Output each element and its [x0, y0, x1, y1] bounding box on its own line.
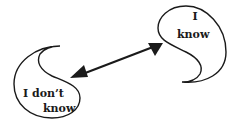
bidirectional-arrow — [70, 43, 163, 78]
label-dont-know-line1: I don’t — [23, 87, 64, 100]
label-know-line2: know — [177, 28, 209, 41]
label-dont-know-line2: know — [43, 102, 75, 115]
label-dont-know: I don’t — [23, 88, 64, 100]
label-know-line2-wrap: know — [177, 29, 209, 41]
label-know: I — [184, 11, 206, 23]
label-dont-know-line2-wrap: know — [43, 103, 75, 115]
label-know-line1: I — [184, 11, 206, 23]
